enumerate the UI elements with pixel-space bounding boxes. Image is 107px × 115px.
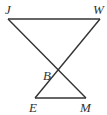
diagram-canvas: J W B E M — [0, 0, 107, 115]
label-j: J — [5, 2, 12, 17]
label-e: E — [28, 100, 37, 115]
label-w: W — [93, 2, 105, 17]
segments — [8, 19, 100, 98]
geometry-diagram: J W B E M — [0, 0, 107, 115]
label-m: M — [79, 100, 92, 115]
segment-jm — [8, 19, 86, 98]
segment-we — [35, 19, 100, 98]
label-b: B — [43, 68, 51, 83]
